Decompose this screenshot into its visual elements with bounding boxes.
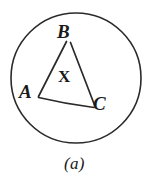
edge-AC — [39, 98, 95, 108]
figure-caption: (a) — [64, 155, 85, 172]
circumscribed-circle — [11, 13, 141, 143]
vertex-label-b: B — [57, 22, 70, 41]
vertex-label-a: A — [19, 82, 32, 101]
geometry-figure: B A C X (a) — [0, 0, 164, 186]
interior-region-label-x: X — [58, 68, 70, 85]
edge-BC — [71, 43, 95, 106]
vertex-label-c: C — [93, 94, 106, 113]
